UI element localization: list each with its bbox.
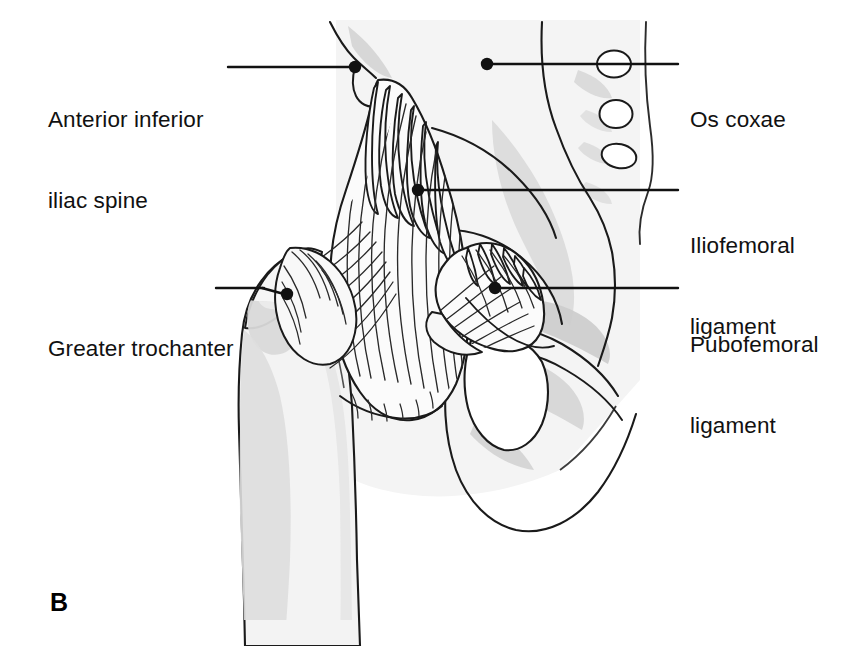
leader-dot-pubofemoral-ligament bbox=[489, 282, 501, 294]
leader-dot-anterior-inferior-iliac-spine bbox=[349, 61, 361, 73]
label-line-1: Iliofemoral bbox=[690, 232, 795, 259]
label-line-2: iliac spine bbox=[48, 187, 204, 214]
label-anterior-inferior-iliac-spine: Anterior inferior iliac spine bbox=[48, 52, 204, 268]
leader-dot-iliofemoral-ligament bbox=[412, 184, 424, 196]
label-line-1: Greater trochanter bbox=[48, 335, 234, 362]
label-os-coxae: Os coxae bbox=[690, 52, 786, 187]
sacral-foramen-2 bbox=[600, 100, 633, 128]
label-line-1: Os coxae bbox=[690, 106, 786, 133]
label-pubofemoral-ligament: Pubofemoral ligament bbox=[690, 277, 819, 493]
sacrum-lateral-border bbox=[639, 22, 652, 244]
panel-letter: B bbox=[50, 590, 68, 615]
anatomy-figure: Anterior inferior iliac spine Os coxae I… bbox=[0, 0, 859, 646]
leader-dot-os-coxae bbox=[481, 58, 493, 70]
leader-dot-greater-trochanter bbox=[281, 288, 293, 300]
label-line-1: Anterior inferior bbox=[48, 106, 204, 133]
label-line-2: ligament bbox=[690, 412, 819, 439]
label-greater-trochanter: Greater trochanter bbox=[48, 281, 234, 416]
label-line-1: Pubofemoral bbox=[690, 331, 819, 358]
